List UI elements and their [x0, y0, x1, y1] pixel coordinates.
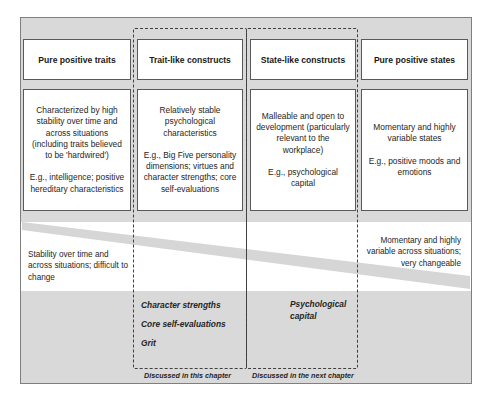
examples-text: E.g., positive moods and emotions: [367, 156, 462, 178]
header-label: Pure positive traits: [38, 55, 115, 65]
body-pure-positive-traits: Characterized by high stability over tim…: [23, 89, 131, 211]
continuum-left-label: Stability over time and across situation…: [28, 249, 128, 283]
body-pure-positive-states: Momentary and highly variable states E.g…: [361, 89, 468, 211]
examples-text: E.g., intelligence; positive hereditary …: [29, 172, 125, 194]
topic-item: Psychological capital: [290, 299, 346, 321]
topic-item: Core self-evaluations: [141, 319, 226, 338]
topic-item: Character strengths: [141, 300, 226, 319]
caption-this-chapter: Discussed in this chapter: [144, 371, 231, 380]
continuum-right-label: Momentary and highly variable across sit…: [351, 235, 461, 269]
description-text: Momentary and highly variable states: [367, 122, 462, 144]
caption-next-chapter: Discussed in the next chapter: [252, 371, 354, 380]
next-chapter-topics: Psychological capital: [290, 299, 350, 322]
header-pure-positive-traits: Pure positive traits: [23, 39, 131, 80]
header-label: Pure positive states: [374, 55, 455, 65]
topic-item: Grit: [141, 338, 226, 357]
description-text: Characterized by high stability over tim…: [29, 105, 125, 161]
header-pure-positive-states: Pure positive states: [361, 39, 468, 80]
this-chapter-topics: Character strengths Core self-evaluation…: [141, 300, 226, 357]
